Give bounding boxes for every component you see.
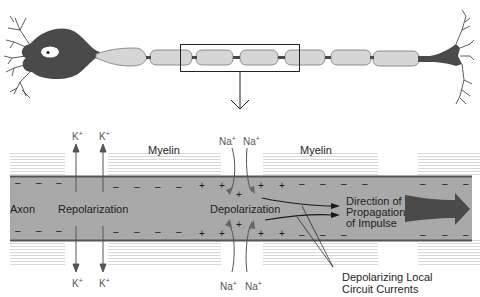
charge-negative: – [442,230,448,240]
charge-negative: – [442,179,448,189]
charge-negative: – [299,179,305,189]
charge-positive: + [219,229,225,239]
charge-negative: – [299,230,305,240]
k-ion-label: K+ [72,130,83,142]
diagram-canvas: Axon Myelin Myelin Repolarization Depola… [0,0,480,297]
dendrites-right-icon [456,10,474,104]
myelin-label-left: Myelin [148,145,180,156]
k-ion-label: K+ [72,277,83,289]
na-ion-label: Na+ [245,280,262,292]
charge-negative: – [176,227,182,237]
charge-negative: – [463,230,469,240]
charge-negative: – [113,227,119,237]
direction-label: Direction of Propagation of Impulse [346,196,405,229]
axon-label: Axon [10,204,35,215]
charge-negative: – [420,230,426,240]
charge-negative: – [36,178,42,188]
charge-positive: + [258,229,264,239]
charge-positive: + [279,229,285,239]
charge-positive: + [279,181,285,191]
charge-negative: – [15,178,21,188]
axon-terminal-icon [418,44,462,66]
charge-negative: – [134,182,140,192]
charge-negative: – [36,226,42,236]
charge-negative: – [463,179,469,189]
charge-negative: – [320,230,326,240]
na-ion-label: Na+ [220,280,237,292]
charge-negative: – [176,182,182,192]
down-arrow-icon [231,72,249,109]
charge-negative: – [155,227,161,237]
charge-positive: + [236,190,242,200]
depolarization-label: Depolarization [210,204,280,215]
charge-negative: – [134,227,140,237]
repolarization-label: Repolarization [58,204,128,215]
charge-negative: – [155,182,161,192]
charge-negative: – [320,179,326,189]
k-ion-label: K+ [99,130,110,142]
neuron-illustration [4,10,474,109]
charge-negative: – [113,182,119,192]
charge-negative: – [15,226,21,236]
charge-positive: + [258,181,264,191]
soma-icon [22,29,100,80]
charge-positive: + [236,220,242,230]
charge-negative: – [341,179,347,189]
myelin-label-right: Myelin [300,145,332,156]
diagram-graphics [0,0,480,297]
charge-positive: + [199,229,205,239]
charge-negative: – [56,226,62,236]
na-ion-label: Na+ [243,135,260,147]
charge-negative: – [341,230,347,240]
charge-positive: + [199,181,205,191]
k-ion-label: K+ [99,277,110,289]
charge-positive: + [219,181,225,191]
charge-negative: – [362,179,368,189]
local-currents-label: Depolarizing Local Circuit Currents [342,271,433,295]
charge-negative: – [56,178,62,188]
nucleus-icon [41,47,59,58]
na-ion-label: Na+ [219,135,236,147]
charge-negative: – [420,179,426,189]
